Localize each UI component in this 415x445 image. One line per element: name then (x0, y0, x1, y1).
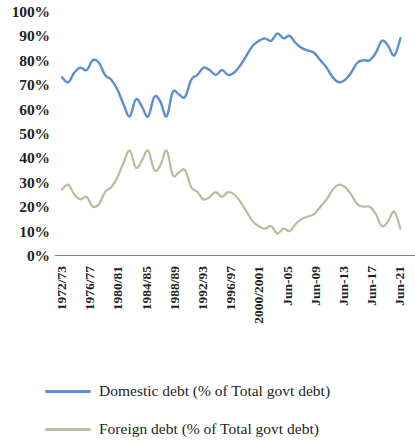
x-axis-tick-label: Jun-09 (308, 262, 324, 366)
x-axis-tick-label: Jun-21 (392, 262, 408, 366)
legend-item-domestic-debt: Domestic debt (% of Total govt debt) (0, 378, 415, 404)
x-axis-tick-label: 1976/77 (82, 262, 98, 366)
y-axis-tick-label: 100% (0, 4, 50, 20)
series-line-foreign-debt (62, 150, 400, 233)
y-axis: 100%90%80%70%60%50%40%30%20%10%0% (0, 0, 50, 268)
x-axis-tick-label: 2000/2001 (251, 262, 267, 366)
y-axis-tick-label: 30% (0, 175, 50, 191)
x-axis-tick-label: 1996/97 (223, 262, 239, 366)
x-axis-tick-label: 1980/81 (110, 262, 126, 366)
x-axis-tick-label: Jun-05 (280, 262, 296, 366)
x-axis-tick-label: 1972/73 (54, 262, 70, 366)
x-axis-tick-label: Jun-13 (336, 262, 352, 366)
legend-item-foreign-debt: Foreign debt (% of Total govt debt) (0, 416, 415, 442)
y-axis-tick-label: 50% (0, 126, 50, 142)
y-axis-tick-label: 40% (0, 150, 50, 166)
x-axis-tick-label: Jun-17 (364, 262, 380, 366)
legend-color-swatch-domestic (45, 390, 91, 393)
y-axis-tick-label: 90% (0, 28, 50, 44)
plot-area: 100%90%80%70%60%50%40%30%20%10%0% (0, 0, 415, 268)
x-axis-tick-label: 1988/89 (167, 262, 183, 366)
plot-canvas (0, 0, 415, 268)
y-axis-tick-label: 10% (0, 224, 50, 240)
legend-label-domestic: Domestic debt (% of Total govt debt) (99, 383, 330, 399)
y-axis-tick-label: 80% (0, 53, 50, 69)
chart-legend: Domestic debt (% of Total govt debt) For… (0, 378, 415, 445)
legend-label-foreign: Foreign debt (% of Total govt debt) (99, 421, 319, 437)
series-line-domestic-debt (62, 33, 400, 116)
y-axis-tick-label: 60% (0, 102, 50, 118)
x-axis: 1972/731976/771980/811984/851988/891992/… (0, 262, 415, 372)
y-axis-tick-label: 70% (0, 77, 50, 93)
x-axis-tick-label: 1984/85 (139, 262, 155, 366)
x-axis-tick-label: 1992/93 (195, 262, 211, 366)
y-axis-tick-label: 20% (0, 199, 50, 215)
legend-color-swatch-foreign (45, 428, 91, 431)
debt-composition-line-chart: 100%90%80%70%60%50%40%30%20%10%0% 1972/7… (0, 0, 415, 445)
